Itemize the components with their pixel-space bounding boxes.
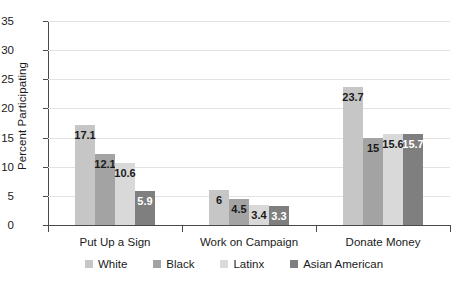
x-category-label: Donate Money (346, 236, 421, 248)
bar-value-label: 15 (367, 143, 379, 154)
bar-group: 23.71515.615.7 (343, 21, 423, 225)
bar-value-label: 3.3 (271, 211, 286, 222)
bar-value-label: 4.5 (231, 204, 246, 215)
x-tick-mark (316, 226, 317, 232)
bar-value-label: 15.7 (402, 139, 423, 150)
legend-swatch-icon (85, 260, 93, 268)
bar-chart: Percent Participating 05101520253035 17.… (0, 0, 468, 284)
legend-item[interactable]: Latinx (220, 258, 264, 270)
bar-value-label: 17.1 (74, 130, 95, 141)
x-category-label: Put Up a Sign (80, 236, 151, 248)
plot-area: 17.112.110.65.964.53.43.323.71515.615.7 (48, 21, 450, 225)
bar-group: 17.112.110.65.9 (75, 21, 155, 225)
legend-label: Black (166, 258, 194, 270)
y-tick-label: 0 (0, 219, 14, 231)
bar-value-label: 3.4 (251, 210, 266, 221)
legend-label: White (98, 258, 127, 270)
x-axis-line (48, 225, 451, 226)
bar[interactable] (343, 87, 363, 225)
bar-value-label: 23.7 (342, 92, 363, 103)
bar-group: 64.53.43.3 (209, 21, 289, 225)
bar-value-label: 6 (216, 195, 222, 206)
legend-item[interactable]: White (85, 258, 127, 270)
y-tick-label: 10 (0, 161, 14, 173)
bar-value-label: 5.9 (137, 196, 152, 207)
y-tick-label: 20 (0, 102, 14, 114)
y-tick-label: 15 (0, 132, 14, 144)
legend-label: Asian American (303, 258, 383, 270)
bar-value-label: 12.1 (94, 159, 115, 170)
y-tick-label: 35 (0, 15, 14, 27)
x-tick-mark (182, 226, 183, 232)
y-axis-title: Percent Participating (16, 16, 28, 216)
x-category-label: Work on Campaign (200, 236, 298, 248)
bar-value-label: 15.6 (382, 139, 403, 150)
y-tick-label: 5 (0, 190, 14, 202)
x-tick-mark (450, 226, 451, 232)
legend-swatch-icon (153, 260, 161, 268)
y-tick-label: 30 (0, 44, 14, 56)
legend-item[interactable]: Black (153, 258, 194, 270)
legend-swatch-icon (290, 260, 298, 268)
legend-label: Latinx (233, 258, 264, 270)
chart-legend: WhiteBlackLatinxAsian American (0, 258, 468, 270)
bar-value-label: 10.6 (114, 168, 135, 179)
legend-item[interactable]: Asian American (290, 258, 383, 270)
x-tick-mark (48, 226, 49, 232)
y-tick-label: 25 (0, 73, 14, 85)
legend-swatch-icon (220, 260, 228, 268)
